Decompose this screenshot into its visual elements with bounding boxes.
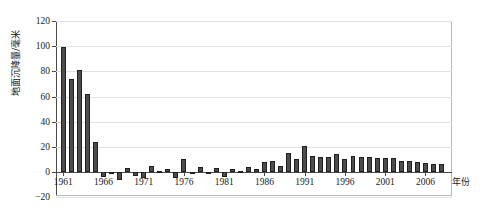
bar: [85, 94, 90, 172]
x-tick-mark: [224, 172, 225, 176]
bar: [351, 156, 356, 172]
x-tick-label: 1981: [204, 177, 244, 188]
bar: [69, 79, 74, 172]
bar: [318, 157, 323, 172]
gridline: [56, 197, 452, 198]
y-tick-label: 100: [24, 41, 50, 51]
bar: [326, 157, 331, 172]
x-tick-label: 1996: [325, 177, 365, 188]
bar: [391, 158, 396, 172]
x-axis-title: 年份: [452, 177, 484, 188]
bar: [342, 159, 347, 172]
bar: [133, 172, 138, 176]
y-tick-label: 20: [24, 142, 50, 152]
x-tick-mark: [425, 172, 426, 176]
y-tick: 0: [20, 167, 50, 177]
bar: [375, 158, 380, 172]
x-tick-mark: [184, 172, 185, 176]
y-tick: 20: [20, 142, 50, 152]
bar: [246, 167, 251, 172]
y-tick: 100: [20, 41, 50, 51]
bar-series: [56, 21, 452, 195]
x-tick-mark: [345, 172, 346, 176]
bar: [238, 171, 243, 173]
y-tick-label: 120: [24, 16, 50, 26]
bar: [214, 168, 219, 172]
bar: [431, 164, 436, 172]
bar: [149, 166, 154, 172]
y-tick-label: 40: [24, 117, 50, 127]
bar: [407, 161, 412, 172]
bar: [383, 158, 388, 172]
x-tick-label: 1986: [244, 177, 284, 188]
y-tick-label: −20: [24, 192, 50, 202]
x-tick-label: 1991: [285, 177, 325, 188]
bar: [270, 161, 275, 172]
bar: [294, 159, 299, 172]
x-tick-mark: [385, 172, 386, 176]
bar: [109, 172, 114, 174]
bar: [157, 171, 162, 173]
y-tick-label: 80: [24, 66, 50, 76]
y-tick-label: 60: [24, 92, 50, 102]
x-tick-mark: [63, 172, 64, 176]
bar: [61, 47, 66, 172]
y-tick-label: 0: [24, 167, 50, 177]
x-tick-mark: [305, 172, 306, 176]
bar: [181, 159, 186, 172]
y-tick: 120: [20, 16, 50, 26]
bar: [206, 172, 211, 174]
bar: [93, 142, 98, 172]
x-tick-label: 1971: [124, 177, 164, 188]
y-tick: 40: [20, 117, 50, 127]
x-tick-label: 2006: [405, 177, 445, 188]
bar: [399, 161, 404, 172]
bar: [367, 157, 372, 172]
x-tick-label: 1966: [83, 177, 123, 188]
bar: [415, 162, 420, 172]
bar: [77, 70, 82, 172]
bar: [190, 172, 195, 174]
x-tick-label: 2001: [365, 177, 405, 188]
y-tick: −20: [20, 192, 50, 202]
plot-frame-bottom: [56, 195, 452, 196]
x-tick-label: 1961: [43, 177, 83, 188]
bar: [125, 168, 130, 172]
y-tick: 60: [20, 92, 50, 102]
y-tick: 80: [20, 66, 50, 76]
bar: [423, 163, 428, 172]
x-tick-label: 1976: [164, 177, 204, 188]
bar: [230, 169, 235, 172]
bar: [254, 169, 259, 172]
bar: [286, 153, 291, 172]
chart-container: 地面沉降量/毫米 −20020406080100120 196119661971…: [0, 0, 484, 218]
bar: [198, 167, 203, 172]
bar: [165, 169, 170, 172]
x-tick-mark: [103, 172, 104, 176]
bar: [310, 156, 315, 172]
bar: [334, 154, 339, 172]
bar: [302, 146, 307, 172]
x-tick-mark: [264, 172, 265, 176]
bar: [359, 157, 364, 172]
bar: [262, 162, 267, 172]
bar: [439, 164, 444, 172]
bar: [278, 166, 283, 172]
x-tick-mark: [144, 172, 145, 176]
